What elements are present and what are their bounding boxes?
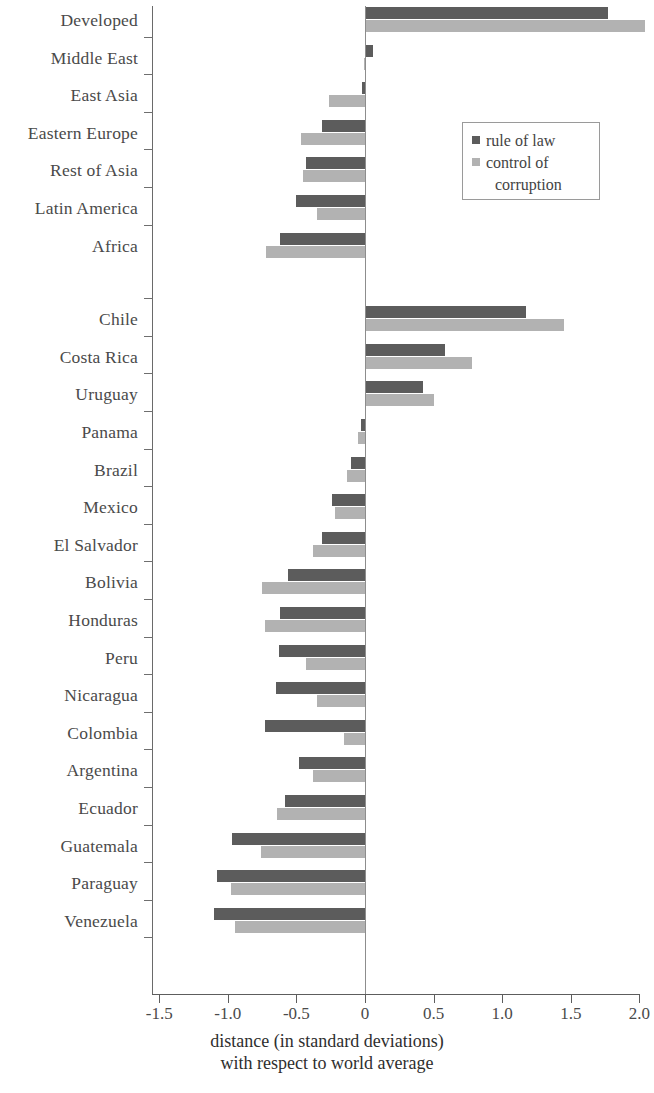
bar-control-of-corruption — [266, 246, 365, 258]
bar-rule-of-law — [288, 569, 365, 581]
x-axis-tick — [571, 994, 572, 1003]
y-axis-tick — [144, 373, 153, 374]
y-axis-tick — [144, 787, 153, 788]
bar-rule-of-law — [280, 233, 365, 245]
y-axis-label: East Asia — [71, 86, 138, 104]
y-axis-tick — [144, 674, 153, 675]
bar-rule-of-law — [306, 157, 365, 169]
zero-reference-line — [365, 6, 366, 994]
y-axis-tick — [144, 449, 153, 450]
bar-control-of-corruption — [344, 733, 365, 745]
y-axis-tick — [144, 187, 153, 188]
bar-control-of-corruption — [365, 394, 434, 406]
y-axis-label: Costa Rica — [60, 348, 138, 366]
x-axis-title-line2: with respect to world average — [0, 1052, 654, 1074]
bar-control-of-corruption — [313, 770, 365, 782]
y-axis-tick — [144, 524, 153, 525]
chart-legend: rule of law control of corruption — [462, 122, 600, 200]
x-axis-tick — [365, 994, 366, 1003]
y-axis-tick — [144, 112, 153, 113]
bar-rule-of-law — [285, 795, 365, 807]
x-axis-tick-label: 0.5 — [423, 1004, 444, 1024]
x-axis-tick-label: 0 — [361, 1004, 370, 1024]
y-axis-label: Argentina — [67, 761, 138, 779]
y-axis-label: Developed — [60, 11, 138, 29]
y-axis-tick — [144, 825, 153, 826]
y-axis-tick — [144, 937, 153, 938]
y-axis-tick — [144, 298, 153, 299]
y-axis-tick — [144, 486, 153, 487]
x-axis-title: distance (in standard deviations) with r… — [0, 1030, 654, 1074]
y-axis-tick — [144, 411, 153, 412]
bar-rule-of-law — [280, 607, 365, 619]
bar-rule-of-law — [332, 494, 365, 506]
y-axis-tick — [144, 599, 153, 600]
bar-rule-of-law — [299, 757, 365, 769]
bar-control-of-corruption — [301, 133, 365, 145]
y-axis-label: Guatemala — [60, 837, 138, 855]
bar-chart: DevelopedMiddle EastEast AsiaEastern Eur… — [0, 0, 654, 1093]
bar-rule-of-law — [296, 195, 365, 207]
y-axis-tick — [144, 712, 153, 713]
y-axis-label: Paraguay — [71, 874, 138, 892]
bar-control-of-corruption — [306, 658, 365, 670]
bar-rule-of-law — [217, 870, 365, 882]
bar-control-of-corruption — [365, 319, 564, 331]
y-axis-label: Middle East — [51, 49, 138, 67]
x-axis-tick — [434, 994, 435, 1003]
x-axis-tick-label: 2.0 — [629, 1004, 650, 1024]
bar-control-of-corruption — [347, 470, 365, 482]
y-axis-line — [152, 6, 153, 994]
bar-control-of-corruption — [262, 582, 365, 594]
y-axis-tick — [144, 637, 153, 638]
y-axis-label: El Salvador — [54, 536, 138, 554]
y-axis-label: Panama — [81, 423, 138, 441]
y-axis-label: Mexico — [83, 498, 138, 516]
y-axis-tick — [144, 37, 153, 38]
bar-control-of-corruption — [358, 432, 365, 444]
y-axis-label: Ecuador — [78, 799, 138, 817]
y-axis-label: Nicaragua — [64, 686, 138, 704]
bar-rule-of-law — [365, 381, 423, 393]
y-axis-tick — [144, 74, 153, 75]
bar-rule-of-law — [279, 645, 365, 657]
x-axis-tick — [502, 994, 503, 1003]
x-axis-tick — [159, 994, 160, 1003]
bar-rule-of-law — [365, 7, 608, 19]
bar-rule-of-law — [365, 45, 373, 57]
bar-control-of-corruption — [261, 846, 365, 858]
legend-label-rule-of-law: rule of law — [486, 131, 555, 150]
bar-control-of-corruption — [277, 808, 365, 820]
bar-control-of-corruption — [313, 545, 365, 557]
y-axis-tick — [144, 336, 153, 337]
bar-rule-of-law — [351, 457, 365, 469]
bar-rule-of-law — [365, 344, 445, 356]
bar-control-of-corruption — [365, 20, 645, 32]
x-axis-tick — [639, 994, 640, 1003]
y-axis-label: Africa — [92, 237, 138, 255]
bar-control-of-corruption — [265, 620, 365, 632]
y-axis-tick — [144, 749, 153, 750]
bar-control-of-corruption — [231, 883, 365, 895]
bar-rule-of-law — [214, 908, 365, 920]
legend-swatch-control-of-corruption — [472, 158, 480, 166]
y-axis-label: Colombia — [67, 724, 138, 742]
y-axis-label: Brazil — [94, 461, 138, 479]
bar-control-of-corruption — [317, 695, 365, 707]
x-axis-tick-label: -0.5 — [283, 1004, 310, 1024]
y-axis-tick — [144, 225, 153, 226]
bar-control-of-corruption — [317, 208, 365, 220]
y-axis-label: Peru — [105, 649, 138, 667]
y-axis-label: Bolivia — [85, 573, 138, 591]
legend-item-rule-of-law: rule of law — [472, 131, 555, 150]
y-axis-label: Rest of Asia — [50, 161, 138, 179]
plot-area: DevelopedMiddle EastEast AsiaEastern Eur… — [0, 0, 654, 1093]
y-axis-tick — [144, 149, 153, 150]
y-axis-label: Chile — [99, 310, 138, 328]
bar-rule-of-law — [365, 306, 526, 318]
x-axis-tick-label: 1.0 — [492, 1004, 513, 1024]
y-axis-label: Uruguay — [75, 385, 138, 403]
legend-swatch-rule-of-law — [472, 136, 480, 144]
bar-rule-of-law — [232, 833, 365, 845]
y-axis-tick — [144, 900, 153, 901]
